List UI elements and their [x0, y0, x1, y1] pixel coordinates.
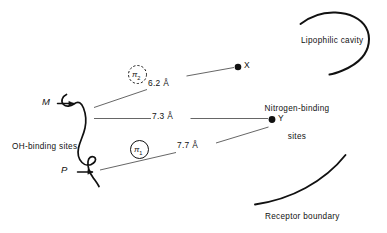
label-lipophilic-cavity: Lipophilic cavity — [301, 36, 363, 45]
nitrogen-binding-line-1: Nitrogen-binding — [251, 104, 343, 113]
binding-point-x-dot — [235, 64, 242, 71]
label-receptor-boundary: Receptor boundary — [265, 212, 340, 221]
label-p: P — [61, 165, 68, 176]
distance-label-p-to-y: 7.7 Å — [177, 141, 198, 151]
receptor-binding-site-diagram: M P X Y π2 π1 6.2 Å 7.3 Å 7.7 Å OH-bindi… — [0, 0, 387, 233]
pi2-subscript: 2 — [137, 75, 140, 81]
pi1-subscript: 1 — [139, 150, 142, 156]
label-x: X — [244, 61, 250, 71]
pi2-label: π2 — [132, 70, 140, 81]
pi1-label: π1 — [134, 145, 142, 156]
label-oh-binding-sites: OH-binding sites — [12, 142, 77, 151]
label-m: M — [42, 97, 50, 108]
nitrogen-binding-line-2: sites — [251, 132, 343, 141]
distance-label-m-to-y: 7.3 Å — [152, 112, 173, 122]
label-nitrogen-binding-sites: Nitrogen-binding sites — [251, 85, 343, 160]
receptor-boundary-curve — [255, 155, 346, 205]
distance-label-m-to-x: 6.2 Å — [148, 79, 169, 89]
